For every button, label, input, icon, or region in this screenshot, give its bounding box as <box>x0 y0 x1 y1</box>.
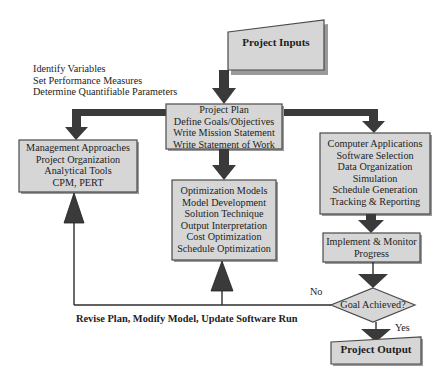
management-line: CPM, PERT <box>19 177 137 189</box>
optimization-text: Optimization Models Model Development So… <box>172 185 276 255</box>
project-plan-line: Write Statement of Work <box>166 139 282 151</box>
project-plan-line: Write Mission Statement <box>166 127 282 139</box>
arrow-plan-to-optimization-head <box>212 165 236 180</box>
annotation-line: Determine Quantifiable Parameters <box>33 86 177 98</box>
computer-line: Tracking & Reporting <box>320 196 430 208</box>
management-line: Project Organization <box>19 154 137 166</box>
implement-line: Implement & Monitor <box>323 236 420 248</box>
computer-line: Data Organization <box>320 161 430 173</box>
optimization-line: Solution Technique <box>172 208 276 220</box>
computer-line: Software Selection <box>320 150 430 162</box>
computer-line: Computer Applications <box>320 138 430 150</box>
arrow-inputs-to-plan-shaft <box>219 70 229 90</box>
annotation-line: Identify Variables <box>33 63 177 75</box>
arrow-inputs-to-plan-head <box>212 88 236 104</box>
implement-line: Progress <box>323 248 420 260</box>
project-plan-text: Project Plan Define Goals/Objectives Wri… <box>166 104 282 150</box>
optimization-line: Output Interpretation <box>172 220 276 232</box>
optimization-line: Model Development <box>172 197 276 209</box>
management-text: Management Approaches Project Organizati… <box>19 142 137 188</box>
implement-text: Implement & Monitor Progress <box>323 236 420 259</box>
management-line: Management Approaches <box>19 142 137 154</box>
feedback-label: Revise Plan, Modify Model, Update Softwa… <box>76 313 297 325</box>
feedback-arrow-to-management <box>64 193 84 223</box>
management-line: Analytical Tools <box>19 165 137 177</box>
arrow-plan-to-optimization-shaft <box>219 149 229 167</box>
computer-line: Schedule Generation <box>320 184 430 196</box>
arrow-plan-to-computer-head <box>362 121 385 133</box>
decision-yes-label: Yes <box>395 322 410 334</box>
decision-no-label: No <box>310 286 322 298</box>
bar-plan-to-computer-horizontal <box>282 109 376 116</box>
arrow-implement-to-decision-head <box>358 274 388 288</box>
optimization-line: Cost Optimization <box>172 231 276 243</box>
feedback-arrow-to-optimization <box>211 261 233 291</box>
computer-line: Simulation <box>320 173 430 185</box>
arrow-plan-to-management-head <box>65 127 88 140</box>
project-plan-line: Project Plan <box>166 104 282 116</box>
annotation-line: Set Performance Measures <box>33 75 177 87</box>
annotation-top: Identify Variables Set Performance Measu… <box>33 63 177 98</box>
arrow-computer-to-implement-head <box>358 220 384 233</box>
computer-text: Computer Applications Software Selection… <box>320 138 430 208</box>
project-plan-line: Define Goals/Objectives <box>166 116 282 128</box>
optimization-line: Optimization Models <box>172 185 276 197</box>
decision-label: Goal Achieved? <box>331 299 415 311</box>
project-inputs-label: Project Inputs <box>228 37 324 49</box>
optimization-line: Schedule Optimization <box>172 243 276 255</box>
project-output-label: Project Output <box>331 344 421 356</box>
bar-plan-to-management-horizontal <box>72 109 167 116</box>
